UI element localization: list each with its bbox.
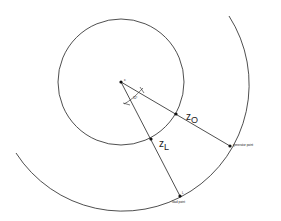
z0-point: [174, 112, 177, 115]
zl-label: zL: [159, 134, 169, 150]
angle-tick-1: [140, 87, 144, 93]
center-label: c: [124, 78, 126, 82]
z0-label: zO: [186, 107, 198, 123]
outer-arc: [16, 16, 249, 211]
generator-point: [228, 144, 231, 147]
angle-label: 32°: [133, 97, 138, 100]
center-point: [119, 80, 122, 83]
generator-label: generator point: [233, 144, 253, 147]
load-label: load point: [172, 201, 185, 204]
smith-chart-diagram: c 32° zO zL generator point L load point: [0, 0, 281, 221]
zl-label-sub: L: [164, 142, 169, 152]
load-marker: L: [182, 192, 184, 195]
z0-label-sub: O: [191, 115, 198, 125]
zl-point: [149, 137, 152, 140]
diagram-graphics: [0, 0, 281, 221]
